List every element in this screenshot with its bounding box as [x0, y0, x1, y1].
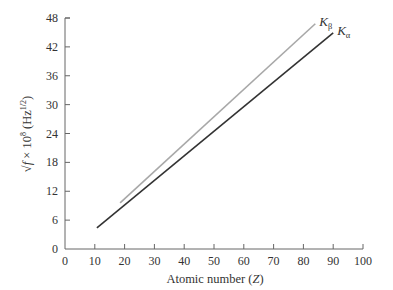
x-tick-label: 40 — [178, 254, 190, 268]
x-tick-label: 30 — [148, 254, 160, 268]
y-axis-title: √f × 108 (Hz1/2) — [19, 96, 34, 172]
x-tick-label: 90 — [327, 254, 339, 268]
x-tick-label: 10 — [89, 254, 101, 268]
x-tick-label: 100 — [354, 254, 372, 268]
x-axis-title: Atomic number (Z) — [166, 272, 263, 286]
x-tick-label: 60 — [238, 254, 250, 268]
series-lines — [97, 24, 333, 228]
series-label-k-alpha: Kα — [336, 23, 351, 40]
series-labels: KβKα — [318, 14, 351, 40]
y-tick-label: 0 — [52, 242, 58, 256]
x-tick-label: 70 — [268, 254, 280, 268]
moseley-plot: 0612182430364248 0102030405060708090100 … — [0, 0, 393, 290]
axes — [65, 18, 363, 249]
y-tick-label: 12 — [46, 184, 58, 198]
y-tick-label: 18 — [46, 155, 58, 169]
series-line-k-beta — [120, 24, 315, 203]
y-tick-label: 42 — [46, 40, 58, 54]
y-tick-label: 24 — [46, 127, 58, 141]
x-tick-label: 80 — [297, 254, 309, 268]
y-axis-ticks: 0612182430364248 — [46, 11, 70, 256]
y-tick-label: 48 — [46, 11, 58, 25]
x-axis-ticks: 0102030405060708090100 — [62, 244, 372, 268]
x-tick-label: 50 — [208, 254, 220, 268]
x-tick-label: 20 — [119, 254, 131, 268]
y-tick-label: 30 — [46, 98, 58, 112]
series-label-k-beta: Kβ — [318, 14, 332, 31]
y-tick-label: 6 — [52, 213, 58, 227]
y-tick-label: 36 — [46, 69, 58, 83]
series-line-k-alpha — [97, 33, 333, 228]
x-tick-label: 0 — [62, 254, 68, 268]
